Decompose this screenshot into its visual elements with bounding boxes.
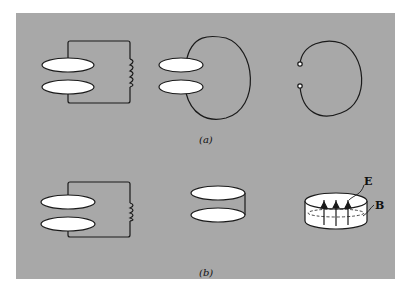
inductor-coil-icon <box>130 203 133 221</box>
b-field-label: B <box>375 199 384 212</box>
lc-circuit-a <box>42 41 133 103</box>
panel-label-b: (b) <box>199 267 213 278</box>
joined-plates-b <box>191 186 245 222</box>
diagram-canvas <box>16 13 395 279</box>
cavity-resonator-b <box>305 185 374 229</box>
lc-circuit-b <box>41 182 133 237</box>
inductor-coil-icon <box>130 59 133 87</box>
loop-inductor-a <box>159 36 250 119</box>
panel-label-a: (a) <box>199 134 213 145</box>
open-loop-a <box>298 41 362 116</box>
figure-panel: (a) (b) E B <box>16 13 395 279</box>
e-field-label: E <box>364 175 372 188</box>
